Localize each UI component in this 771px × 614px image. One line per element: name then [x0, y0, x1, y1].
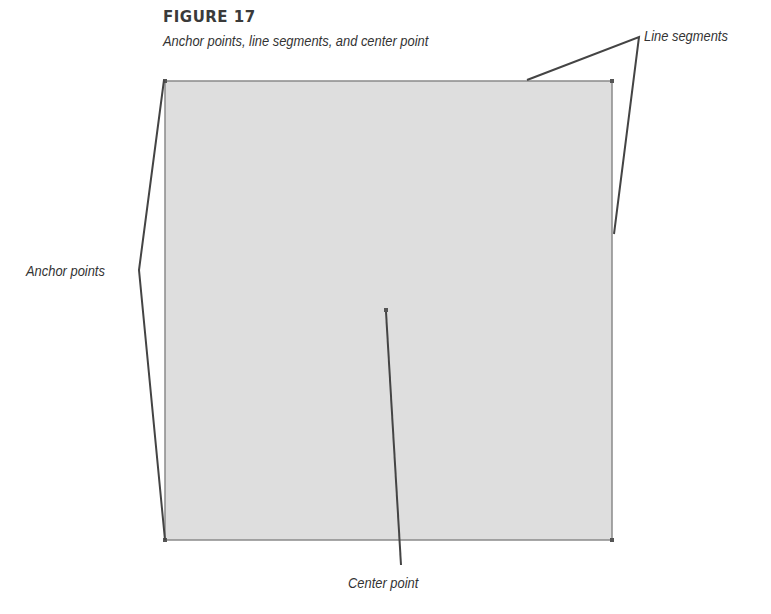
label-anchor-points: Anchor points	[26, 262, 105, 279]
anchor-point-top-right[interactable]	[610, 79, 614, 83]
label-center-point: Center point	[348, 574, 418, 591]
callout-anchor-points	[139, 80, 165, 540]
label-line-segments: Line segments	[644, 27, 728, 44]
center-point[interactable]	[384, 308, 388, 312]
anchor-point-bottom-right[interactable]	[610, 538, 614, 542]
rectangle-shape[interactable]	[165, 81, 612, 540]
shape-diagram	[0, 0, 771, 614]
